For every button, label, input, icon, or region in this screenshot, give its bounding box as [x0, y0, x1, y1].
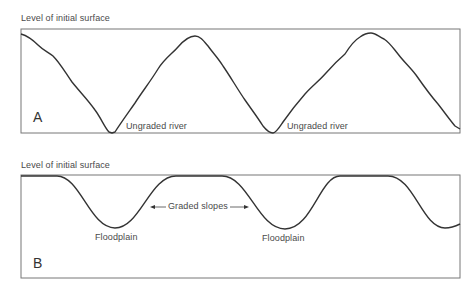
panel-b-profile-graded — [21, 176, 460, 229]
panel-b-surface-label: Level of initial surface — [21, 160, 110, 170]
panel-a-surface-label: Level of initial surface — [21, 13, 110, 23]
ungraded-river-label-1: Ungraded river — [126, 121, 187, 131]
floodplain-label-1: Floodplain — [95, 232, 138, 242]
panel-b-letter: B — [33, 255, 42, 271]
ungraded-river-label-2: Ungraded river — [287, 121, 348, 131]
graded-slopes-label: Graded slopes — [168, 201, 228, 211]
diagram-canvas — [0, 0, 476, 303]
panel-a-profile-ungraded — [21, 33, 460, 133]
arrowhead-right-icon — [244, 205, 249, 209]
arrowhead-left-icon — [150, 205, 155, 209]
floodplain-label-2: Floodplain — [262, 233, 305, 243]
panel-a-frame — [21, 29, 460, 133]
panel-a-letter: A — [33, 109, 42, 125]
panel-b-frame — [21, 175, 460, 278]
